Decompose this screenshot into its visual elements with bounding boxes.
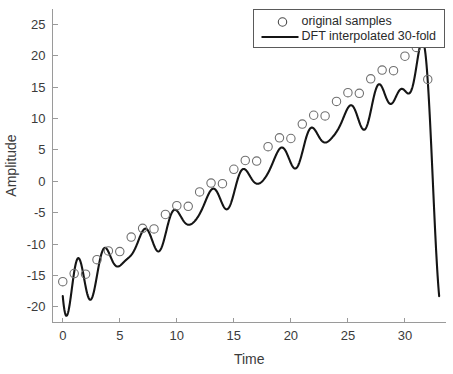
sample-marker: [332, 97, 340, 105]
sample-marker: [195, 188, 203, 196]
y-tick-label: -15: [27, 268, 46, 283]
x-tick-label: 0: [59, 328, 66, 343]
sample-marker: [355, 89, 363, 97]
y-tick-label: 0: [38, 174, 45, 189]
x-tick-label: 25: [341, 328, 355, 343]
sample-marker: [264, 142, 272, 150]
sample-marker: [150, 225, 158, 233]
y-tick-label: 25: [31, 17, 45, 32]
sample-marker: [241, 156, 249, 164]
sample-marker: [389, 66, 397, 74]
sample-marker: [127, 233, 135, 241]
x-axis-title: Time: [234, 351, 265, 367]
sample-marker: [218, 180, 226, 188]
interpolated-curve: [63, 41, 439, 316]
data-group: [63, 41, 439, 316]
sample-marker: [116, 247, 124, 255]
y-tick-label: -5: [34, 205, 46, 220]
sample-marker: [230, 165, 238, 173]
sample-marker: [173, 201, 181, 209]
y-tick-label: 20: [31, 48, 45, 63]
y-axis-title: Amplitude: [3, 134, 19, 196]
sample-marker: [184, 202, 192, 210]
ticks-group: -20-15-10-50510152025051015202530: [27, 17, 412, 343]
sample-marker: [298, 120, 306, 128]
x-tick-label: 5: [116, 328, 123, 343]
sample-marker: [207, 179, 215, 187]
x-tick-label: 15: [227, 328, 241, 343]
sample-marker: [367, 75, 375, 83]
legend-label-interpolated: DFT interpolated 30-fold: [302, 29, 437, 43]
y-tick-label: 15: [31, 80, 45, 95]
sample-markers-group: [59, 43, 432, 286]
sample-marker: [252, 157, 260, 165]
sample-marker: [401, 52, 409, 60]
x-tick-label: 30: [398, 328, 412, 343]
axes-group: [53, 9, 447, 323]
y-tick-label: -20: [27, 299, 46, 314]
sample-marker: [287, 134, 295, 142]
chart-figure: -20-15-10-50510152025051015202530 TimeAm…: [0, 0, 453, 374]
sample-marker: [161, 210, 169, 218]
sample-marker: [275, 134, 283, 142]
x-tick-label: 20: [284, 328, 298, 343]
sample-marker: [344, 88, 352, 96]
sample-marker: [309, 111, 317, 119]
y-tick-label: 10: [31, 111, 45, 126]
x-tick-label: 10: [170, 328, 184, 343]
y-tick-label: 5: [38, 142, 45, 157]
sample-marker: [321, 112, 329, 120]
legend-group: original samplesDFT interpolated 30-fold: [254, 10, 445, 48]
sample-marker: [59, 277, 67, 285]
legend-label-samples: original samples: [302, 14, 392, 28]
chart-canvas: -20-15-10-50510152025051015202530 TimeAm…: [0, 0, 453, 374]
y-tick-label: -10: [27, 237, 46, 252]
sample-marker: [378, 66, 386, 74]
